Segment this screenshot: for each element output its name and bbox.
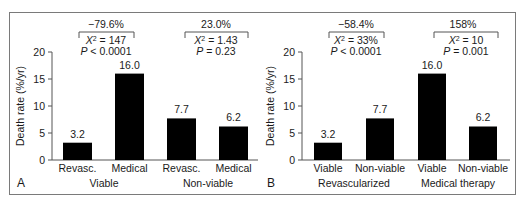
bar: [115, 74, 144, 160]
group-label: Viable: [90, 177, 119, 189]
panel-label: A: [17, 176, 25, 190]
y-tick-labels: 20 15 10 5 0: [283, 46, 295, 166]
bar: [418, 74, 446, 160]
comparison-bracket: −79.6% X2 = 147 P < 0.0001: [79, 18, 134, 57]
x-tick-label: Viable: [314, 162, 343, 174]
y-axis-label: Death rate (%/yr): [14, 66, 26, 146]
y-ticks: [298, 52, 302, 160]
x-tick-label: Revasc.: [163, 162, 201, 174]
svg-text:158%: 158%: [450, 18, 477, 30]
svg-text:P < 0.0001: P < 0.0001: [80, 45, 131, 57]
bar-value-label: 6.2: [476, 111, 491, 123]
svg-text:P = 0.001: P = 0.001: [443, 45, 488, 57]
bar-value-label: 3.2: [321, 128, 336, 140]
x-tick-label: Viable: [418, 162, 447, 174]
x-tick-label: Revasc.: [59, 162, 97, 174]
bar-value-label: 6.2: [226, 111, 241, 123]
x-tick-label: Medical: [215, 162, 251, 174]
comparison-bracket: 158% X2 = 10 P = 0.001: [434, 18, 498, 57]
comparison-bracket: 23.0% X2 = 1.43 P = 0.23: [185, 18, 248, 57]
bar: [314, 143, 342, 160]
svg-text:10: 10: [33, 100, 45, 112]
group-label: Medical therapy: [421, 177, 496, 189]
bar-value-label: 7.7: [373, 103, 388, 115]
bar: [63, 143, 92, 160]
x-tick-label: Medical: [111, 162, 147, 174]
svg-text:10: 10: [283, 100, 295, 112]
y-axis-label: Death rate (%/yr): [264, 66, 276, 146]
y-tick-labels: 20 15 10 5 0: [33, 46, 45, 166]
svg-text:5: 5: [39, 127, 45, 139]
bar: [167, 118, 196, 160]
comparison-bracket: −58.4% X2 = 33% P < 0.0001: [329, 18, 384, 57]
y-ticks: [48, 52, 52, 160]
svg-text:5: 5: [289, 127, 295, 139]
bar: [366, 118, 394, 160]
x-tick-label: Non-viable: [355, 162, 405, 174]
bar: [469, 127, 497, 161]
figure: Death rate (%/yr) 20 15 10 5 0 3.2 16.0: [0, 0, 526, 205]
svg-text:15: 15: [283, 73, 295, 85]
group-label: Revascularized: [318, 177, 390, 189]
svg-text:P = 0.23: P = 0.23: [196, 45, 236, 57]
svg-text:23.0%: 23.0%: [201, 18, 231, 30]
svg-text:0: 0: [289, 154, 295, 166]
svg-text:15: 15: [33, 73, 45, 85]
group-label: Non-viable: [183, 177, 233, 189]
svg-text:−79.6%: −79.6%: [88, 18, 124, 30]
bar: [219, 127, 248, 161]
panel-a: Death rate (%/yr) 20 15 10 5 0 3.2 16.0: [14, 18, 258, 190]
svg-text:−58.4%: −58.4%: [338, 18, 374, 30]
svg-text:P < 0.0001: P < 0.0001: [330, 45, 381, 57]
bar-value-label: 7.7: [174, 103, 189, 115]
bar-value-label: 16.0: [119, 59, 140, 71]
panel-b: Death rate (%/yr) 20 15 10 5 0 3.2 7.7 1…: [264, 18, 510, 190]
svg-text:20: 20: [33, 46, 45, 58]
bar-value-label: 3.2: [70, 128, 85, 140]
x-tick-label: Non-viable: [458, 162, 508, 174]
svg-text:20: 20: [283, 46, 295, 58]
bar-value-label: 16.0: [422, 59, 443, 71]
svg-text:0: 0: [39, 154, 45, 166]
panel-label: B: [267, 176, 275, 190]
